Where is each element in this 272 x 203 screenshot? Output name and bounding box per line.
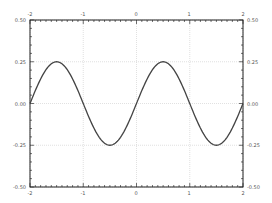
bottom-x-label: 2	[241, 190, 244, 196]
bottom-x-label: -1	[81, 190, 86, 196]
sine-chart: -2 -1 0 1 2 -2 -1 0 1 2 0.50 0.25 0.00 -…	[0, 0, 272, 203]
left-y-label: 0.25	[15, 59, 26, 65]
bottom-x-label: 0	[134, 190, 137, 196]
top-x-label: -2	[28, 11, 33, 17]
right-y-label: 0.00	[247, 101, 258, 107]
left-y-label: -0.25	[13, 142, 26, 148]
bottom-x-label: -2	[28, 190, 33, 196]
right-y-label: 0.25	[247, 59, 258, 65]
top-x-label: 0	[134, 11, 137, 17]
right-y-label: 0.50	[247, 17, 258, 23]
top-x-label: 2	[241, 11, 244, 17]
left-y-label: 0.50	[15, 17, 26, 23]
left-y-label: 0.00	[15, 101, 26, 107]
top-x-label: -1	[81, 11, 86, 17]
right-y-label: -0.25	[247, 142, 260, 148]
bottom-x-label: 1	[187, 190, 190, 196]
left-y-label: -0.50	[13, 184, 26, 190]
right-y-label: -0.50	[247, 184, 260, 190]
top-x-label: 1	[187, 11, 190, 17]
